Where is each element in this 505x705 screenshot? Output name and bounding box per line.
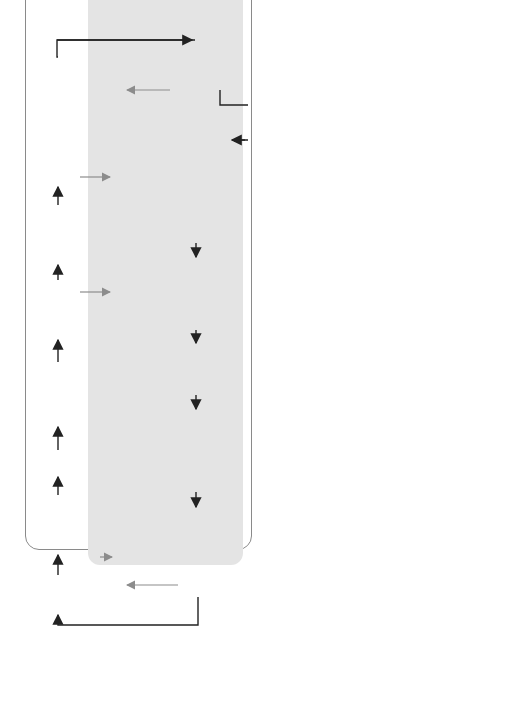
connector-lines: [0, 0, 505, 705]
flow-diagram: .fw-panel { left:140px !important; top:8…: [0, 0, 505, 705]
